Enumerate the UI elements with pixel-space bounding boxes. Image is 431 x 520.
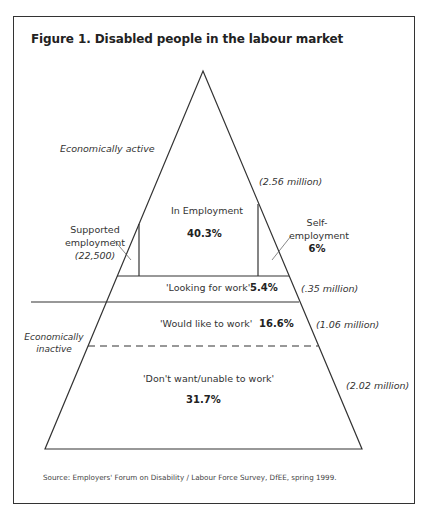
would-like-to-work-count: (1.06 million) [316, 319, 379, 330]
self-value: 6% [289, 242, 345, 255]
looking-for-work-count: (.35 million) [301, 283, 358, 294]
economically-inactive-line1: Economically [24, 331, 84, 343]
economically-active-label: Economically active [60, 143, 155, 154]
supported-count: (22,500) [60, 249, 130, 262]
source-note: Source: Employers' Forum on Disability /… [43, 473, 337, 482]
employment-count: (2.56 million) [259, 176, 322, 187]
would-like-to-work-label: 'Would like to work' [160, 318, 252, 329]
self-employment-label: Self- employment 6% [289, 216, 345, 255]
dont-want-label: 'Don't want/unable to work' [143, 373, 274, 384]
supported-line2: employment [60, 236, 130, 249]
looking-for-work-value: 5.4% [250, 282, 278, 293]
self-line1: Self- [289, 216, 345, 229]
supported-employment-label: Supported employment (22,500) [60, 223, 130, 262]
would-like-to-work-value: 16.6% [259, 318, 294, 329]
supported-line1: Supported [60, 223, 130, 236]
in-employment-label: In Employment [171, 205, 243, 216]
self-line2: employment [289, 229, 345, 242]
economically-inactive-line2: inactive [24, 343, 84, 355]
dont-want-count: (2.02 million) [346, 380, 409, 391]
in-employment-value: 40.3% [187, 228, 222, 239]
economically-inactive-label: Economically inactive [24, 331, 84, 355]
dont-want-value: 31.7% [186, 394, 221, 405]
looking-for-work-label: 'Looking for work' [166, 282, 250, 293]
